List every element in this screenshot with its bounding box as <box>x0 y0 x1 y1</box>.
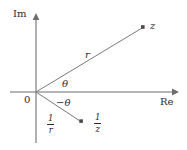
point-label-z: z <box>150 21 155 31</box>
point-marker-z <box>141 25 145 29</box>
angle-label-theta: θ <box>62 79 68 89</box>
angle-label-minus-theta: −θ <box>56 98 70 108</box>
radius-label-one-over-r: 1 r <box>47 114 54 135</box>
one-over-r-numerator: 1 <box>47 114 54 123</box>
real-axis-label: Re <box>160 97 173 107</box>
one-over-z-denominator: z <box>94 124 101 133</box>
complex-plane-figure: Im Re 0 z r θ −θ 1 r 1 z <box>0 0 187 150</box>
imaginary-axis-arrowhead <box>33 13 40 20</box>
point-marker-one-over-z <box>79 119 83 123</box>
one-over-z-numerator: 1 <box>94 113 101 122</box>
imaginary-axis-label: Im <box>13 9 26 19</box>
ray-to-z <box>36 28 142 92</box>
origin-label: 0 <box>24 95 30 105</box>
one-over-r-denominator: r <box>47 125 54 134</box>
point-label-one-over-z: 1 z <box>94 113 101 134</box>
real-axis-arrowhead <box>172 89 179 96</box>
radius-label-r: r <box>85 50 90 60</box>
